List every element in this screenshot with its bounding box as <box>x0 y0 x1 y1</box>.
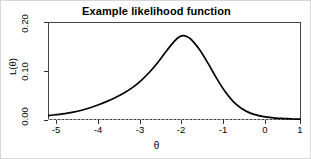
x-tick-label-5: 0 <box>252 124 278 135</box>
x-tick-label-4: -1 <box>210 124 236 135</box>
x-tick-label-0: -5 <box>43 124 69 135</box>
likelihood-curve <box>48 36 301 119</box>
y-tick-label-1: 0.10 <box>19 57 30 87</box>
x-tick-label-3: -2 <box>168 124 194 135</box>
x-tick-label-2: -3 <box>127 124 153 135</box>
y-tick-label-0: 0.20 <box>19 9 30 39</box>
y-tick-label-2: 0.00 <box>19 102 30 132</box>
y-axis-label: L(θ) <box>7 47 18 87</box>
x-tick-label-6: 1 <box>287 124 311 135</box>
plot-area <box>48 22 301 120</box>
x-tick-label-1: -4 <box>85 124 111 135</box>
x-axis-label: θ <box>1 140 311 151</box>
chart-title: Example likelihood function <box>1 5 311 17</box>
y-tick-mark <box>44 120 48 121</box>
chart-figure: Example likelihood function L(θ) 0.20 0.… <box>0 0 311 159</box>
